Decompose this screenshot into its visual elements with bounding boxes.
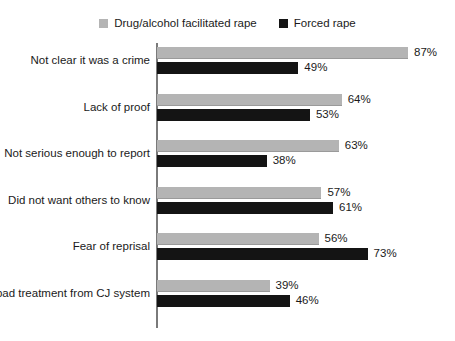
bar-value-label: 61% xyxy=(339,202,362,214)
bar-row: 39% xyxy=(157,280,299,292)
legend-swatch-drug-alcohol-icon xyxy=(99,19,108,28)
bar-group: Fear of reprisal56%73% xyxy=(0,231,455,271)
bar-row: 53% xyxy=(157,109,339,121)
bar-forced xyxy=(157,62,298,74)
bar-forced xyxy=(157,295,290,307)
bar-value-label: 38% xyxy=(273,155,296,167)
bar-row: 73% xyxy=(157,248,397,260)
bar-value-label: 63% xyxy=(345,140,368,152)
bar-row: 49% xyxy=(157,62,327,74)
bar-value-label: 46% xyxy=(296,295,319,307)
bar-row: 57% xyxy=(157,187,350,199)
bar-group: Fear bad treatment from CJ system39%46% xyxy=(0,278,455,318)
bar-value-label: 57% xyxy=(327,187,350,199)
plot-area: Not clear it was a crime87%49%Lack of pr… xyxy=(0,41,455,331)
bar-drug-alcohol xyxy=(157,94,342,106)
bar-chart: Drug/alcohol facilitated rape Forced rap… xyxy=(0,0,455,341)
category-label: Fear bad treatment from CJ system xyxy=(0,287,150,300)
bar-value-label: 87% xyxy=(414,47,437,59)
category-label: Lack of proof xyxy=(0,101,150,114)
bar-value-label: 73% xyxy=(374,248,397,260)
bar-row: 87% xyxy=(157,47,437,59)
bar-drug-alcohol xyxy=(157,47,408,59)
bar-forced xyxy=(157,202,333,214)
bar-value-label: 64% xyxy=(348,94,371,106)
legend-item-forced: Forced rape xyxy=(279,18,356,30)
bar-value-label: 39% xyxy=(276,280,299,292)
bar-forced xyxy=(157,248,368,260)
bar-drug-alcohol xyxy=(157,187,321,199)
bar-value-label: 53% xyxy=(316,109,339,121)
bar-value-label: 56% xyxy=(325,233,348,245)
bar-value-label: 49% xyxy=(304,62,327,74)
legend-label-drug-alcohol: Drug/alcohol facilitated rape xyxy=(114,18,257,30)
bar-row: 56% xyxy=(157,233,348,245)
bar-group: Did not want others to know57%61% xyxy=(0,185,455,225)
bar-row: 64% xyxy=(157,94,371,106)
chart-legend: Drug/alcohol facilitated rape Forced rap… xyxy=(0,18,455,30)
bar-row: 46% xyxy=(157,295,319,307)
bar-row: 63% xyxy=(157,140,368,152)
bar-drug-alcohol xyxy=(157,233,319,245)
category-label: Did not want others to know xyxy=(0,194,150,207)
legend-label-forced: Forced rape xyxy=(294,18,356,30)
legend-item-drug-alcohol: Drug/alcohol facilitated rape xyxy=(99,18,257,30)
bar-row: 38% xyxy=(157,155,296,167)
bar-row: 61% xyxy=(157,202,362,214)
bar-drug-alcohol xyxy=(157,140,339,152)
bar-forced xyxy=(157,155,267,167)
category-label: Fear of reprisal xyxy=(0,240,150,253)
category-label: Not clear it was a crime xyxy=(0,54,150,67)
bar-group: Not serious enough to report63%38% xyxy=(0,138,455,178)
bar-group: Lack of proof64%53% xyxy=(0,92,455,132)
bar-group: Not clear it was a crime87%49% xyxy=(0,45,455,85)
bar-drug-alcohol xyxy=(157,280,270,292)
category-label: Not serious enough to report xyxy=(0,147,150,160)
bar-forced xyxy=(157,109,310,121)
legend-swatch-forced-icon xyxy=(279,19,288,28)
